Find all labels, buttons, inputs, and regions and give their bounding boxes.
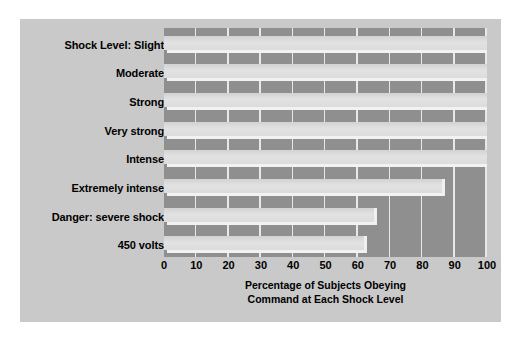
bar xyxy=(164,64,487,81)
bar-fill xyxy=(164,208,374,222)
bar-shadow xyxy=(167,50,487,53)
category-label: Extremely intense xyxy=(20,183,164,194)
category-label-axis: Shock Level: SlightModerateStrongVery st… xyxy=(20,28,164,257)
bar xyxy=(164,36,487,53)
x-axis-tick-labels: 0102030405060708090100 xyxy=(164,259,487,273)
x-axis-title: Percentage of Subjects Obeying Command a… xyxy=(164,278,487,306)
x-tick-label: 90 xyxy=(449,259,461,271)
bar-fill xyxy=(164,36,487,50)
bar-shadow xyxy=(167,250,364,253)
x-tick-label: 60 xyxy=(352,259,364,271)
plot-area xyxy=(164,28,487,257)
x-tick-label: 20 xyxy=(222,259,234,271)
bar-fill xyxy=(164,93,487,107)
x-tick-label: 30 xyxy=(255,259,267,271)
bar-fill xyxy=(164,122,487,136)
bar-shadow xyxy=(167,222,374,225)
bar-end-cap xyxy=(374,208,377,225)
category-label: Intense xyxy=(20,154,164,165)
x-axis-title-line1: Percentage of Subjects Obeying xyxy=(164,278,487,292)
bar-fill xyxy=(164,64,487,78)
bar-shadow xyxy=(167,107,487,110)
category-label: Moderate xyxy=(20,68,164,79)
bar-end-cap xyxy=(364,236,367,253)
x-tick-label: 50 xyxy=(319,259,331,271)
bar xyxy=(164,150,487,167)
x-tick-label: 70 xyxy=(384,259,396,271)
bar-end-cap xyxy=(442,179,445,196)
x-tick-label: 0 xyxy=(161,259,167,271)
bar-fill xyxy=(164,179,442,193)
category-label: Shock Level: Slight xyxy=(20,40,164,51)
x-axis-title-line2: Command at Each Shock Level xyxy=(164,292,487,306)
bar-fill xyxy=(164,236,364,250)
x-tick-label: 80 xyxy=(416,259,428,271)
category-label: Very strong xyxy=(20,126,164,137)
bar-fill xyxy=(164,150,487,164)
bar xyxy=(164,179,487,196)
bar-shadow xyxy=(167,164,487,167)
category-label: Danger: severe shock xyxy=(20,212,164,223)
bar xyxy=(164,122,487,139)
bar xyxy=(164,93,487,110)
bar-shadow xyxy=(167,136,487,139)
chart-figure: Shock Level: SlightModerateStrongVery st… xyxy=(20,19,501,322)
bar xyxy=(164,236,487,253)
category-label: 450 volts xyxy=(20,240,164,251)
x-tick-label: 40 xyxy=(287,259,299,271)
x-tick-label: 10 xyxy=(190,259,202,271)
category-label: Strong xyxy=(20,97,164,108)
bar-shadow xyxy=(167,193,442,196)
x-tick-label: 100 xyxy=(478,259,496,271)
bar xyxy=(164,208,487,225)
bar-shadow xyxy=(167,78,487,81)
